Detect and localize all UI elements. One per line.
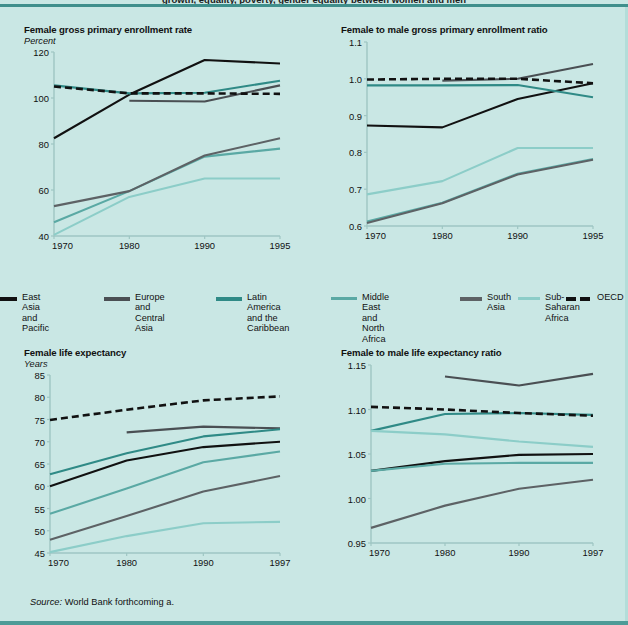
legend-swatch-dash-a bbox=[566, 297, 576, 301]
x-axis-tick-label: 1995 bbox=[583, 230, 604, 241]
panel-title: Female life expectancy bbox=[24, 347, 286, 358]
legend-label: South Asia bbox=[487, 292, 511, 313]
plot-area: 4060801001201970198019901995 bbox=[24, 46, 286, 252]
plot-area: 0.951.001.051.101.151970198019901997 bbox=[341, 359, 599, 559]
x-axis-tick-label: 1997 bbox=[583, 547, 604, 558]
x-axis-tick-label: 1990 bbox=[509, 547, 530, 558]
y-axis-tick-label: 100 bbox=[24, 93, 49, 104]
y-axis-tick-label: 65 bbox=[24, 459, 45, 470]
y-axis-tick-label: 85 bbox=[24, 370, 45, 381]
axis-lines bbox=[367, 42, 593, 226]
legend-label: Middle East and North Africa bbox=[362, 292, 389, 344]
figure-page: growth, equality, poverty, gender equali… bbox=[0, 0, 628, 625]
series-line-sub-saharan-africa bbox=[54, 179, 280, 235]
legend-swatch bbox=[104, 297, 130, 301]
legend-label: OECD bbox=[597, 292, 624, 302]
y-axis-tick-label: 0.7 bbox=[341, 184, 362, 195]
series-line-middle-east-and-north-africa bbox=[371, 463, 593, 471]
panel-title: Female gross primary enrollment rate bbox=[24, 24, 286, 35]
y-axis-tick-label: 75 bbox=[24, 414, 45, 425]
legend-swatch bbox=[331, 297, 357, 300]
legend-swatch bbox=[518, 297, 540, 300]
chart-panel-female-gross-primary-enrollment-rate: Female gross primary enrollment rate Per… bbox=[24, 24, 286, 252]
y-axis-tick-label: 1.15 bbox=[341, 360, 366, 371]
top-rule bbox=[0, 4, 628, 7]
series-line-oecd bbox=[50, 396, 280, 420]
legend-label: East Asia and Pacific bbox=[22, 292, 49, 334]
x-axis-tick-label: 1970 bbox=[369, 547, 390, 558]
x-axis-tick-label: 1970 bbox=[52, 240, 73, 251]
y-axis-tick-label: 0.6 bbox=[341, 221, 362, 232]
series-line-europe-and-central-asia bbox=[445, 374, 593, 386]
series-line-latin-america-and-the-caribbean bbox=[54, 81, 280, 94]
y-axis-tick-label: 120 bbox=[24, 47, 49, 58]
y-axis-tick-label: 45 bbox=[24, 548, 45, 559]
series-line-middle-east-and-north-africa bbox=[367, 159, 593, 222]
x-axis-tick-label: 1970 bbox=[48, 557, 69, 568]
y-axis-tick-label: 40 bbox=[24, 231, 49, 242]
legend-swatch bbox=[0, 297, 17, 301]
chart-svg bbox=[341, 36, 599, 242]
y-axis-tick-label: 80 bbox=[24, 392, 45, 403]
y-axis-tick-label: 55 bbox=[24, 503, 45, 514]
x-axis-tick-label: 1995 bbox=[270, 240, 291, 251]
legend-swatch-dash-b bbox=[580, 297, 590, 301]
legend-swatch bbox=[216, 297, 242, 301]
source-note: Source: World Bank forthcoming a. bbox=[30, 597, 174, 607]
chart-panel-female-to-male-life-expectancy-ratio: Female to male life expectancy ratio 0.9… bbox=[341, 347, 599, 559]
chart-panel-female-to-male-gross-primary-enrollment-ratio: Female to male gross primary enrollment … bbox=[341, 24, 599, 242]
x-axis-tick-label: 1980 bbox=[432, 230, 453, 241]
legend-label: Latin America and the Caribbean bbox=[247, 292, 289, 334]
series-line-latin-america-and-the-caribbean bbox=[50, 429, 280, 474]
y-axis-tick-label: 50 bbox=[24, 525, 45, 536]
series-line-south-asia bbox=[367, 160, 593, 223]
chart-panel-female-life-expectancy: Female life expectancy Years 45505560657… bbox=[24, 347, 286, 569]
source-prefix: Source: bbox=[30, 597, 62, 607]
series-line-south-asia bbox=[371, 480, 593, 528]
y-axis-tick-label: 1.05 bbox=[341, 449, 366, 460]
panel-title: Female to male gross primary enrollment … bbox=[341, 24, 599, 35]
series-line-sub-saharan-africa bbox=[371, 431, 593, 447]
y-axis-tick-label: 0.8 bbox=[341, 147, 362, 158]
series-line-east-asia-and-pacific bbox=[54, 60, 280, 138]
y-axis-tick-label: 1.10 bbox=[341, 404, 366, 415]
series-line-south-asia bbox=[54, 138, 280, 206]
series-line-east-asia-and-pacific bbox=[367, 83, 593, 127]
bottom-rule bbox=[0, 621, 628, 625]
series-line-middle-east-and-north-africa bbox=[54, 149, 280, 223]
legend-label: Europe and Central Asia bbox=[135, 292, 165, 334]
series-line-latin-america-and-the-caribbean bbox=[367, 85, 593, 97]
y-axis-tick-label: 80 bbox=[24, 139, 49, 150]
x-axis-tick-label: 1980 bbox=[116, 557, 137, 568]
x-axis-tick-label: 1990 bbox=[507, 230, 528, 241]
y-axis-tick-label: 70 bbox=[24, 436, 45, 447]
x-axis-tick-label: 1980 bbox=[119, 240, 140, 251]
y-axis-tick-label: 0.9 bbox=[341, 110, 362, 121]
y-axis-tick-label: 60 bbox=[24, 481, 45, 492]
y-axis-tick-label: 1.00 bbox=[341, 493, 366, 504]
source-text: World Bank forthcoming a. bbox=[65, 597, 174, 607]
chart-svg bbox=[24, 46, 286, 252]
x-axis-tick-label: 1997 bbox=[270, 557, 291, 568]
plot-area: 4550556065707580851970198019901997 bbox=[24, 369, 286, 569]
x-axis-tick-label: 1990 bbox=[194, 240, 215, 251]
series-line-sub-saharan-africa bbox=[50, 522, 280, 552]
x-axis-tick-label: 1990 bbox=[193, 557, 214, 568]
x-axis-tick-label: 1980 bbox=[435, 547, 456, 558]
chart-svg bbox=[341, 359, 599, 559]
y-axis-tick-label: 60 bbox=[24, 185, 49, 196]
panel-unit-label: Percent bbox=[24, 36, 286, 46]
series-line-oecd bbox=[54, 87, 280, 94]
chart-svg bbox=[24, 369, 286, 569]
y-axis-tick-label: 1.0 bbox=[341, 73, 362, 84]
y-axis-tick-label: 1.1 bbox=[341, 37, 362, 48]
series-line-europe-and-central-asia bbox=[442, 64, 593, 81]
plot-area: 0.60.70.80.91.01.11970198019901995 bbox=[341, 36, 599, 242]
legend-swatch bbox=[460, 297, 482, 301]
panel-title: Female to male life expectancy ratio bbox=[341, 347, 599, 358]
y-axis-tick-label: 0.95 bbox=[341, 538, 366, 549]
x-axis-tick-label: 1970 bbox=[365, 230, 386, 241]
series-line-oecd bbox=[367, 79, 593, 83]
panel-unit-label: Years bbox=[24, 359, 286, 369]
